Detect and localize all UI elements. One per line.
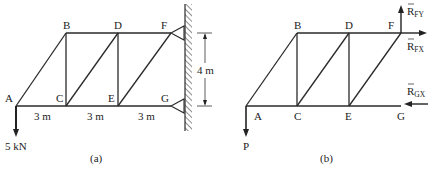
node-label-d-b: D — [345, 19, 353, 31]
truss-members-b — [246, 33, 401, 106]
node-label-g-b: G — [397, 110, 405, 122]
node-label-e-a: E — [108, 92, 115, 104]
load-label-a: 5 kN — [5, 140, 27, 152]
node-label-f-a: F — [161, 19, 167, 31]
node-label-g-a: G — [161, 92, 169, 104]
load-arrow-a — [13, 106, 19, 137]
height-dimension: 4 m — [197, 33, 214, 106]
reaction-label-rfy: RFY — [407, 4, 425, 19]
node-label-f-b: F — [388, 19, 394, 31]
truss-figure: 4 m 5 kN A B C D E F G 3 m 3 m 3 m (a) — [0, 0, 428, 169]
span-label-1: 3 m — [34, 110, 51, 122]
reaction-label-rfx: RFX — [407, 39, 425, 54]
span-label-2: 3 m — [87, 110, 104, 122]
node-label-b-b: B — [294, 19, 301, 31]
pin-support-g — [171, 99, 184, 113]
node-label-d-a: D — [114, 19, 122, 31]
load-arrow-b — [243, 106, 249, 137]
load-label-b: P — [243, 140, 249, 152]
svg-text:RGX: RGX — [407, 85, 426, 99]
member-cd-b — [297, 33, 349, 106]
member-ef-b — [349, 33, 401, 106]
node-label-c-b: C — [294, 110, 301, 122]
truss-diagram-b: P RFY RFX RGX A B C — [243, 4, 428, 165]
wall — [185, 4, 192, 131]
svg-text:RFY: RFY — [407, 5, 425, 19]
height-label: 4 m — [197, 64, 214, 76]
reaction-arrow-rfy — [398, 5, 404, 33]
span-label-3: 3 m — [138, 110, 155, 122]
member-ab-b — [246, 33, 297, 106]
reaction-arrow-rfx — [401, 30, 427, 36]
caption-a: (a) — [90, 152, 103, 165]
caption-b: (b) — [320, 152, 333, 165]
node-label-b-a: B — [63, 19, 70, 31]
truss-members-a — [16, 33, 171, 106]
reaction-arrow-rgx — [404, 101, 428, 107]
pin-support-f — [171, 26, 184, 40]
reaction-label-rgx: RGX — [407, 84, 426, 99]
node-label-c-a: C — [56, 92, 63, 104]
node-label-e-b: E — [345, 110, 352, 122]
node-label-a-b: A — [254, 110, 262, 122]
truss-diagram-a: 4 m 5 kN A B C D E F G 3 m 3 m 3 m (a) — [5, 4, 214, 165]
node-label-a-a: A — [5, 92, 13, 104]
svg-text:RFX: RFX — [407, 40, 425, 54]
